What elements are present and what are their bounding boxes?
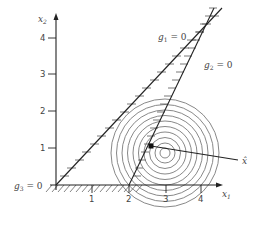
x-tick-label: 2 — [126, 194, 131, 204]
x-tick-label: 3 — [163, 194, 168, 204]
optimum-label: x̂ — [242, 156, 247, 166]
g3-label: g3 = 0 — [14, 181, 43, 192]
x-tick-label: 1 — [89, 194, 94, 204]
y-axis — [54, 13, 59, 190]
x-axis — [50, 183, 223, 188]
y-axis-label: x2 — [38, 14, 47, 25]
y-tick-label: 3 — [40, 69, 45, 79]
optimization-diagram: 1 2 3 4 1 2 3 4 x2 x1 g1 = 0 g2 = 0 g3 =… — [0, 0, 261, 226]
y-tick-label: 4 — [40, 33, 45, 43]
x-tick-label: 4 — [198, 194, 203, 204]
optimum-point — [149, 144, 239, 161]
y-tick-label: 2 — [40, 106, 45, 116]
y-ticks — [48, 38, 56, 148]
g2-label: g2 = 0 — [204, 60, 233, 71]
y-tick-label: 1 — [40, 143, 45, 153]
objective-contours — [111, 99, 219, 207]
g3-hatching — [46, 185, 142, 192]
g1-label: g1 = 0 — [158, 32, 187, 43]
x-axis-label: x1 — [222, 189, 231, 200]
